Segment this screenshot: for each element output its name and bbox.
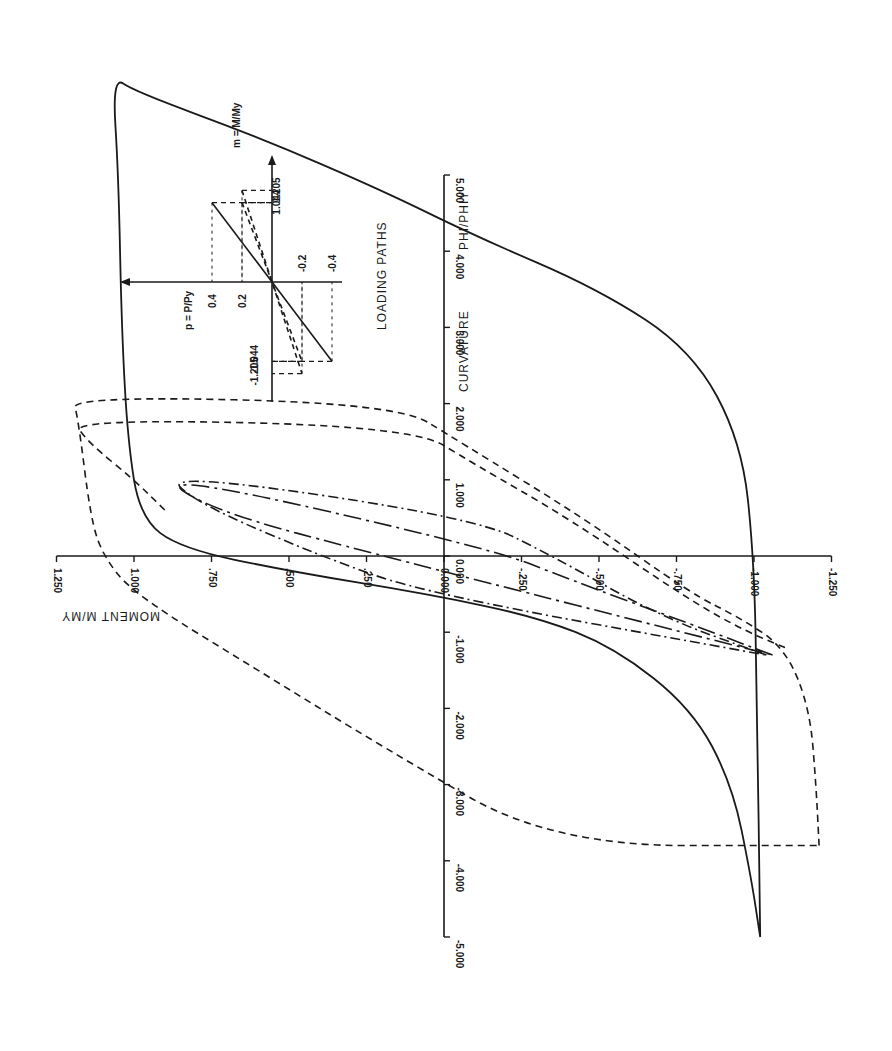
moment-tick-label: .750 (207, 568, 218, 588)
curvature-tick-label: -4.000 (454, 864, 465, 893)
moment-tick-label: -1.250 (827, 568, 838, 597)
series-curve (75, 399, 819, 846)
inset-arrow-icon (268, 155, 276, 165)
curvature-tick-label: -2.000 (454, 711, 465, 740)
inset-m-tick-label: 1.044 (271, 189, 282, 214)
curvature-tick-label: 2.000 (454, 407, 465, 432)
series-curve (79, 422, 785, 648)
series-curve (180, 485, 773, 655)
inset-p-tick-label: 0.4 (207, 294, 218, 308)
curvature-tick-label: 0.000 (454, 559, 465, 584)
moment-tick-label: -.250 (517, 568, 528, 591)
moment-curvature-chart: -5.000-4.000-3.000-2.000-1.0000.0001.000… (0, 0, 892, 1051)
inset-p-label: p = P/Py (183, 290, 194, 330)
inset-p-tick-label: -0.4 (327, 254, 338, 272)
inset-p-tick-label: -0.2 (297, 254, 308, 272)
inset-m-tick-label: -1.205 (249, 357, 260, 386)
inset-p-tick-label: 0.2 (237, 294, 248, 308)
moment-axis-title: MOMENT M/MY (61, 609, 160, 623)
curvature-tick-label: -5.000 (454, 940, 465, 969)
axis-titles: CURVATURE PHI/PHIY MOMENT M/MY LOADING P… (61, 102, 471, 623)
curvature-tick-label: -1.000 (454, 635, 465, 664)
curvature-tick-label: 1.000 (454, 483, 465, 508)
chart-series (75, 83, 819, 937)
moment-tick-label: 1.250 (52, 568, 63, 593)
curvature-axis-unit: PHI/PHIY (457, 191, 471, 250)
loading-paths-inset: 1.2051.044-1.044-1.2050.40.2-0.2-0.4 (120, 155, 342, 402)
curvature-tick-label: 4.000 (454, 254, 465, 279)
inset-title: LOADING PATHS (375, 221, 389, 330)
moment-tick-label: -.750 (672, 568, 683, 591)
curvature-axis-title: CURVATURE (457, 310, 471, 392)
inset-m-label: m = M/My (231, 102, 242, 148)
